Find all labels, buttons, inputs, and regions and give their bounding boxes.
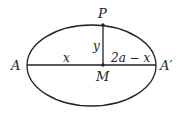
label-A-prime: A′ bbox=[159, 58, 172, 73]
point-M-dot bbox=[101, 63, 104, 66]
label-x: x bbox=[63, 51, 70, 65]
label-P: P bbox=[97, 6, 107, 21]
label-A: A bbox=[10, 58, 20, 73]
label-2a-minus-x: 2a − x bbox=[110, 51, 150, 65]
label-M: M bbox=[95, 69, 110, 84]
ellipse-diagram: P M A A′ x y 2a − x bbox=[0, 0, 185, 113]
point-P-dot bbox=[101, 23, 104, 26]
label-y: y bbox=[92, 39, 100, 53]
